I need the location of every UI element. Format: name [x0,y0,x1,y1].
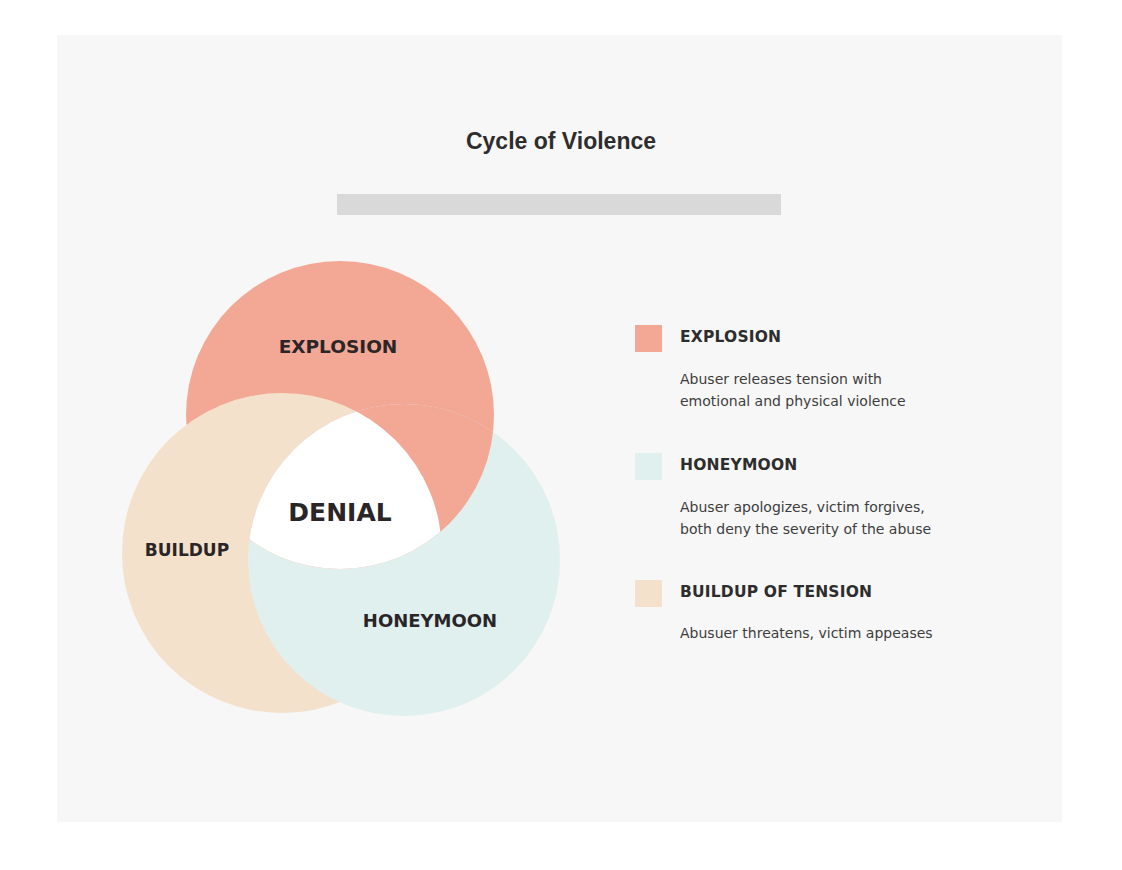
legend-title: BUILDUP OF TENSION [680,583,872,601]
legend-desc-line: Abuser releases tension with [680,368,882,390]
legend-desc-line: emotional and physical violence [680,390,906,412]
explosion-swatch [635,325,662,352]
denial-label: DENIAL [288,498,391,527]
buildup-label: BUILDUP [145,540,229,560]
legend-title: EXPLOSION [680,328,781,346]
honeymoon-label: HONEYMOON [363,610,497,631]
legend-desc-line: Abuser apologizes, victim forgives, [680,496,925,518]
cycle-venn-diagram: EXPLOSION BUILDUP HONEYMOON DENIAL [0,0,1122,870]
legend-desc-line: Abusuer threatens, victim appeases [680,622,933,644]
buildup-swatch [635,580,662,607]
legend-title: HONEYMOON [680,456,797,474]
honeymoon-swatch [635,453,662,480]
explosion-label: EXPLOSION [279,336,398,357]
legend-desc-line: both deny the severity of the abuse [680,518,931,540]
